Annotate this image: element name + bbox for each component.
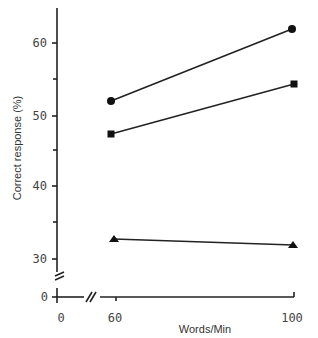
x-axis-title: Words/Min: [179, 323, 231, 335]
series-square: [108, 81, 298, 138]
data-point: [291, 81, 298, 88]
y-tick-0: 0: [41, 290, 48, 304]
x-axis: [57, 292, 294, 302]
y-axis: [52, 8, 64, 303]
series-circle: [107, 25, 296, 105]
x-tick-60: 60: [108, 311, 122, 325]
data-point: [108, 131, 115, 138]
data-point: [288, 25, 296, 33]
line-chart: 60 50 40 30 0 0 60 100 Words/Min Correct…: [0, 0, 318, 338]
data-point: [107, 97, 115, 105]
series-triangle: [109, 235, 298, 248]
y-tick-60: 60: [33, 36, 47, 50]
x-tick-0: 0: [57, 311, 64, 325]
x-tick-100: 100: [281, 311, 303, 325]
y-tick-40: 40: [33, 179, 47, 193]
y-tick-30: 30: [33, 252, 47, 266]
y-tick-50: 50: [33, 109, 47, 123]
y-axis-title: Correct response (%): [11, 96, 23, 201]
